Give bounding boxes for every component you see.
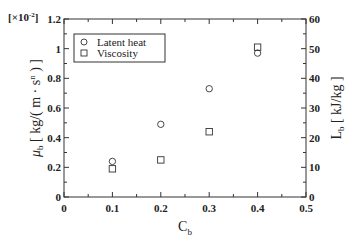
y-multiplier: [×10-2] xyxy=(8,11,38,23)
x-tick-label: 0.2 xyxy=(154,202,168,214)
legend-viscosity: Viscosity xyxy=(97,47,138,59)
y-tick-label-left: 1.2 xyxy=(47,13,61,25)
y-tick-label-right: 50 xyxy=(309,43,321,55)
y-axis-label-left: μb [ kg/( m · sn ) ] xyxy=(27,59,45,158)
chart: 00.10.20.30.40.500.20.40.60.811.20102030… xyxy=(0,0,356,249)
y-tick-label-right: 20 xyxy=(309,132,321,144)
y-tick-label-left: 1 xyxy=(56,43,62,55)
viscosity-point xyxy=(109,166,115,172)
y-tick-label-right: 10 xyxy=(309,161,321,173)
x-tick-label: 0.5 xyxy=(299,202,313,214)
x-tick-label: 0.4 xyxy=(251,202,265,214)
viscosity-point xyxy=(254,44,260,50)
y-tick-label-left: 0.6 xyxy=(47,102,61,114)
data-points xyxy=(109,44,261,172)
y-tick-label-right: 40 xyxy=(309,72,321,84)
latent-heat-point xyxy=(158,121,164,127)
y-axis-label-right: Lb [ kJ/kg ] xyxy=(329,76,346,139)
y-tick-label-left: 0.8 xyxy=(47,72,61,84)
x-tick-label: 0.1 xyxy=(106,202,120,214)
x-tick-label: 0.3 xyxy=(202,202,216,214)
y-tick-label-left: 0 xyxy=(56,191,62,203)
latent-heat-point xyxy=(254,50,260,56)
y-tick-label-right: 60 xyxy=(309,13,321,25)
x-axis-label: Cb xyxy=(178,219,192,237)
x-tick-label: 0 xyxy=(61,202,67,214)
legend: Latent heat Viscosity xyxy=(74,34,165,62)
viscosity-point xyxy=(158,157,164,163)
y-tick-label-left: 0.2 xyxy=(47,161,61,173)
viscosity-point xyxy=(206,129,212,135)
y-tick-label-right: 30 xyxy=(309,102,321,114)
latent-heat-point xyxy=(109,158,115,164)
latent-heat-point xyxy=(206,86,212,92)
y-tick-label-left: 0.4 xyxy=(47,132,61,144)
y-tick-label-right: 0 xyxy=(309,191,315,203)
